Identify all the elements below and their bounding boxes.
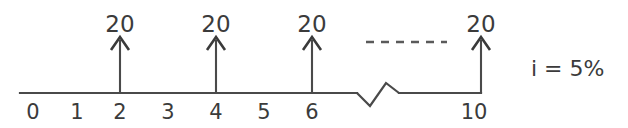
cash-flow-arrow-period-10 xyxy=(472,37,490,93)
tick-label-4: 4 xyxy=(209,102,222,123)
cash-flow-amount-period-4: 20 xyxy=(201,13,230,36)
cash-flow-arrow-period-4 xyxy=(207,37,225,93)
cash-flow-arrow-period-2 xyxy=(111,37,129,93)
cash-flow-amount-period-2: 20 xyxy=(105,13,134,36)
tick-label-2: 2 xyxy=(113,102,126,123)
cash-flow-diagram: 20 20 20 20 0 1 2 3 4 5 6 10 i = 5% xyxy=(0,0,628,128)
tick-label-0: 0 xyxy=(26,102,39,123)
tick-label-5: 5 xyxy=(257,102,270,123)
cash-flow-arrow-period-6 xyxy=(303,37,321,93)
interest-rate-label: i = 5% xyxy=(531,58,604,80)
tick-label-10: 10 xyxy=(461,102,488,123)
tick-label-6: 6 xyxy=(305,102,318,123)
axis-break-zigzag-icon xyxy=(357,83,399,106)
cash-flow-amount-period-10: 20 xyxy=(466,13,495,36)
tick-label-3: 3 xyxy=(161,102,174,123)
cash-flow-amount-period-6: 20 xyxy=(297,13,326,36)
tick-label-1: 1 xyxy=(70,102,83,123)
